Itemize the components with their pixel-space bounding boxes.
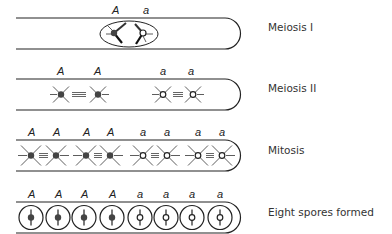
- spindle-bridge: [173, 93, 183, 97]
- allele-label: a: [160, 65, 166, 77]
- stage-label-meiosis-2: Meiosis II: [268, 82, 316, 94]
- spore-light-icon: [128, 206, 152, 230]
- light-nucleus-spindle-icon: [130, 146, 153, 166]
- spindle-bridge: [151, 154, 159, 158]
- allele-label: A: [54, 188, 62, 200]
- dark-nucleus-spindle-icon: [100, 146, 123, 166]
- dark-nucleus-spindle-icon: [46, 146, 69, 166]
- allele-label: a: [219, 126, 225, 138]
- spore-dark-icon: [72, 206, 96, 230]
- ascus-meiosis-2: A A a a: [16, 65, 241, 110]
- allele-label: A: [106, 126, 114, 138]
- light-nucleus-spindle-icon: [185, 146, 208, 166]
- light-nucleus-icon: [140, 30, 146, 36]
- ascus-diagram: A a A A a a AAAAaaaa AAAAaaaa: [0, 0, 392, 234]
- allele-label: a: [163, 188, 169, 200]
- ascus-meiosis-1: A a: [16, 4, 240, 49]
- allele-label: A: [27, 126, 35, 138]
- dark-nucleus-spindle-icon: [50, 87, 69, 103]
- spore-light-icon: [154, 206, 178, 230]
- allele-label: A: [56, 65, 64, 77]
- dark-nucleus-spindle-icon: [73, 146, 96, 166]
- spore-dark-icon: [100, 206, 124, 230]
- spore-dark-icon: [46, 206, 70, 230]
- allele-label: a: [164, 126, 170, 138]
- ascus-spores: AAAAaaaa: [16, 188, 241, 233]
- allele-label: a: [217, 188, 223, 200]
- allele-label: A: [111, 4, 119, 16]
- allele-label: a: [137, 188, 143, 200]
- allele-label: A: [108, 188, 116, 200]
- spindle-bridge: [206, 154, 214, 158]
- stage-label-meiosis-1: Meiosis I: [268, 21, 313, 33]
- spore-light-icon: [208, 206, 232, 230]
- allele-label: a: [188, 65, 194, 77]
- allele-label: A: [82, 126, 90, 138]
- allele-label: A: [27, 188, 35, 200]
- allele-label: a: [143, 4, 149, 16]
- dark-nucleus-spindle-icon: [18, 146, 41, 166]
- dark-nucleus-spindle-icon: [90, 87, 109, 103]
- allele-label: A: [80, 188, 88, 200]
- light-nucleus-spindle-icon: [185, 87, 204, 103]
- spore-dark-icon: [19, 206, 43, 230]
- stage-label-mitosis: Mitosis: [268, 144, 304, 156]
- spindle-bridge: [94, 154, 102, 158]
- spindle-bridge: [72, 93, 86, 97]
- allele-label: a: [189, 188, 195, 200]
- allele-label: A: [52, 126, 60, 138]
- allele-label: a: [140, 126, 146, 138]
- light-nucleus-spindle-icon: [212, 146, 235, 166]
- stage-label-spores: Eight spores formed: [268, 206, 374, 218]
- light-nucleus-spindle-icon: [157, 146, 180, 166]
- dark-nucleus-icon: [111, 30, 117, 36]
- allele-label: A: [93, 65, 101, 77]
- spore-light-icon: [180, 206, 204, 230]
- ascus-mitosis: AAAAaaaa: [16, 126, 241, 171]
- spindle-bridge: [39, 154, 48, 158]
- light-nucleus-spindle-icon: [152, 87, 171, 103]
- allele-label: a: [195, 126, 201, 138]
